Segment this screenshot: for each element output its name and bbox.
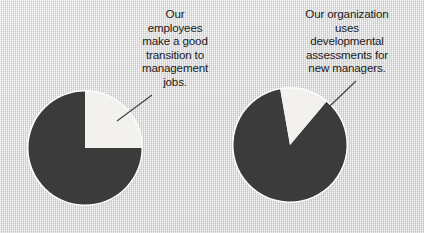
pie-chart-right: [231, 86, 349, 204]
callout-text-right: Our organization uses developmental asse…: [281, 7, 413, 75]
pie-right-svg: [231, 86, 349, 204]
pie-left-slice-agree: [85, 92, 142, 149]
pie-left-svg: [26, 89, 144, 207]
callout-text-left: Our employees make a good transition to …: [131, 7, 219, 89]
pie-chart-figure: Our employees make a good transition to …: [0, 0, 424, 233]
pie-chart-left: [26, 89, 144, 207]
